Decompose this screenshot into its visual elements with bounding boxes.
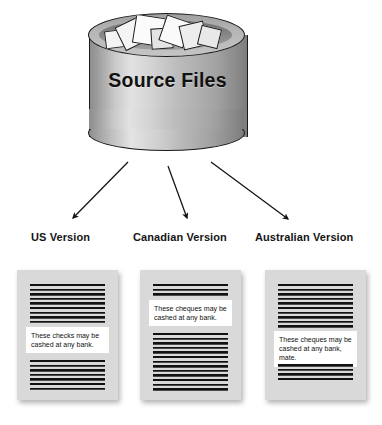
arrow-to-canadian <box>168 166 187 218</box>
label-us-version: US Version <box>31 231 90 243</box>
arrow-to-us <box>73 162 128 218</box>
label-canadian-version: Canadian Version <box>133 231 227 243</box>
greeked-text-block <box>30 284 105 325</box>
greeked-text-block <box>278 364 353 380</box>
callout-us: These checks may be cashed at any bank. <box>26 327 109 353</box>
arrow-to-australian <box>211 162 288 219</box>
greeked-text-block <box>153 284 228 298</box>
greeked-text-block <box>153 333 228 392</box>
greeked-text-block <box>278 284 353 329</box>
label-australian-version: Australian Version <box>255 231 353 243</box>
document-panel-canadian: These cheques may be cashed at any bank. <box>140 270 241 400</box>
diagram-canvas: Source Files US Version Canadian Version… <box>0 0 382 425</box>
document-panel-australian: These cheques may be cashed at any bank,… <box>265 270 366 400</box>
callout-canadian: These cheques may be cashed at any bank. <box>149 300 232 326</box>
document-panel-us: These checks may be cashed at any bank. <box>17 270 118 400</box>
greeked-text-block <box>30 360 105 392</box>
callout-australian: These cheques may be cashed at any bank,… <box>274 331 357 367</box>
